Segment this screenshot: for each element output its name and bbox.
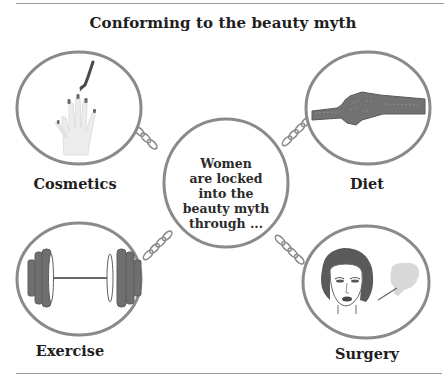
- center-line: beauty myth: [163, 201, 289, 216]
- center-line: Women: [163, 156, 289, 171]
- center-line: through ...: [163, 216, 289, 231]
- center-statement: Women are locked into the beauty myth th…: [163, 156, 289, 231]
- center-line: are locked: [163, 171, 289, 186]
- label-cosmetics: Cosmetics: [15, 175, 135, 192]
- label-surgery: Surgery: [307, 345, 427, 362]
- center-line: into the: [163, 186, 289, 201]
- label-diet: Diet: [307, 175, 427, 192]
- label-exercise: Exercise: [10, 342, 130, 359]
